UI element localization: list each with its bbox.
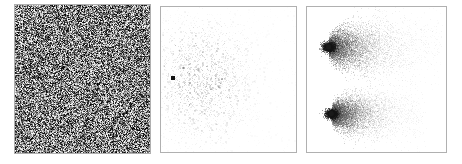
figure-container	[0, 0, 462, 164]
panel-sparse-scatter	[160, 6, 297, 153]
double-comet-canvas	[307, 7, 446, 152]
sparse-scatter-canvas	[161, 7, 296, 152]
panel-uniform-noise	[14, 4, 151, 154]
uniform-noise-canvas	[15, 5, 150, 153]
panel-double-comet	[306, 6, 447, 153]
